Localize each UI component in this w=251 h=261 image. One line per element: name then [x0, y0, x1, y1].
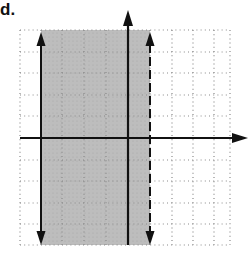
inequality-graph [0, 0, 251, 261]
